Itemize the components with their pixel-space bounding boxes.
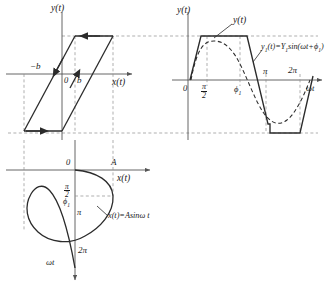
output-tick-phi1: ϕ1 <box>234 85 241 96</box>
output-x-axis-label: ωt <box>306 84 314 93</box>
input-tick-pi: π <box>77 208 81 217</box>
output-tick-phi1-sub: 1 <box>238 90 241 96</box>
input-tick-pi-over-2: π 2 <box>64 183 70 198</box>
input-tick-phi1: ϕ1 <box>63 198 70 208</box>
fundamental-mid: (t)=Y <box>267 42 285 51</box>
hysteresis-origin-label: 0 <box>64 76 68 85</box>
input-origin-label: 0 <box>66 158 70 167</box>
output-tick-pi-over-2: π 2 <box>201 83 207 99</box>
input-equation-fn: sinω t <box>130 211 150 220</box>
input-equation-label: x(t)=Asinω t <box>108 212 150 220</box>
hysteresis-pos-b-label: b <box>77 76 82 85</box>
output-y-axis-label: y(t) <box>177 6 190 16</box>
fundamental-close: ) <box>321 42 324 51</box>
hysteresis-x-axis-label: x(t) <box>112 78 125 88</box>
input-equation-lhs: x(t)= <box>108 211 125 220</box>
input-x-axis-label: x(t) <box>117 174 130 184</box>
input-amplitude-label: A <box>111 158 117 167</box>
output-tick-0: 0 <box>183 84 187 93</box>
output-tick-pi: π <box>263 67 268 76</box>
input-tick-2pi: 2π <box>78 246 87 255</box>
hysteresis-neg-b-label: −b <box>30 62 41 71</box>
input-sine-curve <box>27 170 113 268</box>
output-plot <box>172 12 322 140</box>
input-equation-leader <box>97 206 108 216</box>
output-wave-label: y(t) <box>233 16 246 26</box>
hysteresis-y-axis-label: y(t) <box>51 4 64 14</box>
input-time-axis-label: ωt <box>46 258 54 267</box>
hysteresis-plot <box>6 12 132 140</box>
hysteresis-right-branch <box>62 36 113 131</box>
fundamental-equation-label: y1(t)=Y1sin(ωt+ϕ1) <box>261 43 324 53</box>
output-tick-pi-over-2-den: 2 <box>201 92 207 100</box>
output-tick-2pi: 2π <box>288 66 297 75</box>
input-tick-phi1-sub: 1 <box>67 202 70 208</box>
fundamental-sin: sin(ωt+ϕ <box>288 42 318 51</box>
